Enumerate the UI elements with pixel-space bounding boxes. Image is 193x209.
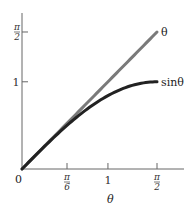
chart: π61π21π2 θsinθ 0 θ [0,0,193,209]
x-tick-label-den: 2 [153,182,160,192]
y-tick-label: 1 [13,76,20,89]
series-label-theta: θ [161,26,168,39]
x-tick-label-den: 6 [64,182,70,192]
x-axis-label: θ [107,193,114,206]
series-group: θsinθ [22,26,184,169]
series-label-sin-theta: sinθ [161,76,184,89]
y-tick-label-den: 2 [13,32,20,42]
series-line-sin-theta [22,82,157,169]
ticks: π61π21π2 [13,22,162,192]
x-tick-label-num: π [153,172,161,182]
x-tick-label-num: π [63,172,71,182]
x-tick-label: 1 [104,174,111,187]
y-tick-label-num: π [13,22,21,32]
origin-label: 0 [15,173,22,186]
